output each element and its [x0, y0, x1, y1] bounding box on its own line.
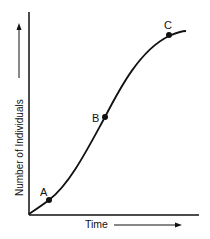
y-axis-label: Number of Individuals — [14, 99, 25, 196]
point-a-label: A — [40, 186, 48, 198]
point-c-label: C — [164, 19, 172, 31]
sigmoid-curve — [29, 31, 186, 214]
x-axis-label: Time — [85, 218, 108, 230]
point-b-label: B — [92, 112, 99, 124]
growth-curve-diagram: A B C Number of Individuals Time — [0, 0, 210, 239]
point-c-marker — [166, 32, 172, 38]
point-b-marker — [102, 114, 108, 120]
y-axis-arrowhead-icon — [17, 23, 22, 30]
x-axis-arrowhead-icon — [175, 223, 182, 228]
